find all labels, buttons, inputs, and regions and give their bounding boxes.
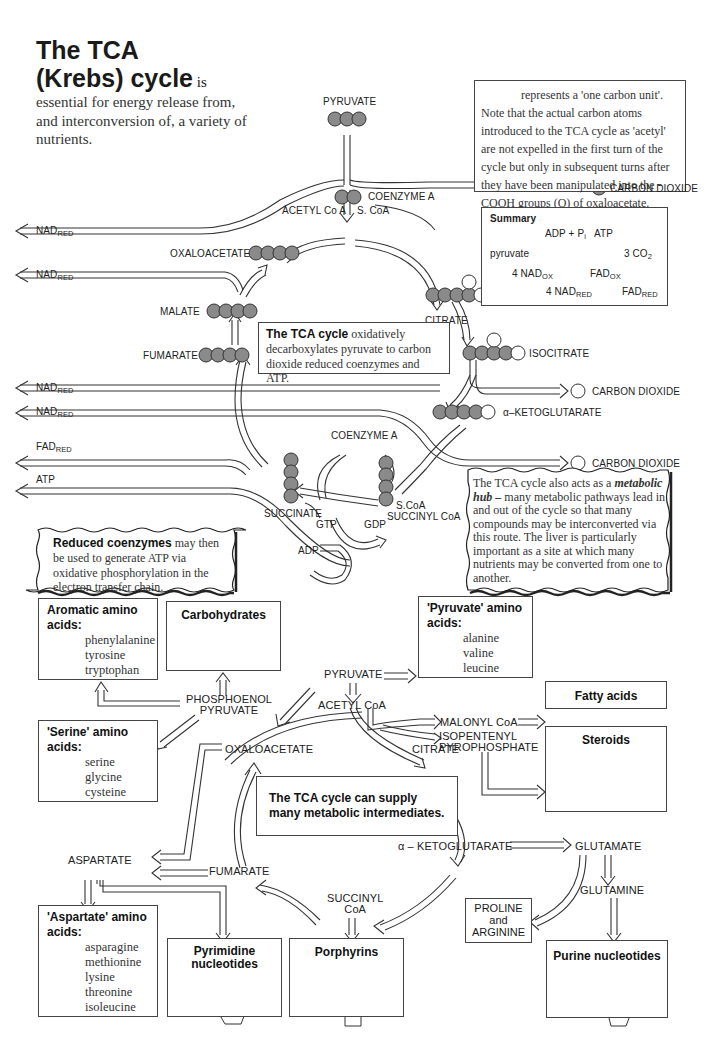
tca-supply-note-text: The TCA cycle can supply many metabolic … [269,791,445,821]
box-pyrimidine-nucleotides: Pyrimidine nucleotides [167,938,282,1017]
box-steroids-heading: Steroids [546,733,666,748]
box-pyrimidine-heading: Pyrimidine nucleotides [182,945,267,971]
reduced-coenzymes-note: Reduced coenzymes may then be used to ge… [53,536,231,595]
summary-pyruvate: pyruvate [490,248,529,259]
label-aspartate: ASPARTATE [68,854,132,866]
aspartate-aa-item: threonine [85,985,149,1000]
label-oxaloacetate-lower: OXALOACETATE [225,743,313,755]
box-steroids: Steroids [545,726,667,812]
label-isocitrate: ISOCITRATE [529,348,589,359]
metabolic-hub-text: many metabolic pathways lead in and out … [473,490,665,585]
box-purine-nucleotides: Purine nucleotides [546,940,668,1018]
summary-co2: 3 CO2 [624,248,652,261]
output-nad-red-2: NADRED [36,269,74,282]
output-nad-red-4: NADRED [36,406,74,419]
metabolic-hub-lead: The TCA cycle also acts as a [473,476,614,490]
label-pyruvate-top: PYRUVATE [323,96,376,107]
label-fumarate-top: FUMARATE [143,350,198,361]
box-carbohydrates-heading: Carbohydrates [167,608,280,623]
serine-aa-item: glycine [85,770,149,785]
aromatic-item: phenylalanine [85,633,149,648]
pyruvate-aa-item: valine [463,646,524,661]
label-fumarate-lower: FUMARATE [209,865,269,877]
summary-heading: Summary [490,213,536,224]
label-malonyl-coa: MALONYL CoA [440,716,518,728]
label-succinyl-coa-top: SUCCINYL CoA [387,511,461,522]
summary-fad-red: FADRED [622,286,658,299]
label-alpha-ketoglutarate-top: α–KETOGLUTARATE [503,407,601,418]
label-oxaloacetate-top: OXALOACETATE [170,248,250,259]
output-nad-red-3: NADRED [36,382,74,395]
output-fad-red: FADRED [36,441,72,454]
summary-fad-ox: FADOX [590,268,621,281]
summary-box: Summary ADP + Pi ATP pyruvate 3 CO2 4 NA… [481,207,668,306]
box-porphyrins: Porphyrins [289,938,404,1017]
box-pyruvate-amino-acids: 'Pyruvate' amino acids: alanine valine l… [418,596,533,678]
pyruvate-aa-item: alanine [463,631,524,646]
metabolic-hub-note: The TCA cycle also acts as a metabolic h… [473,477,665,585]
label-carbon-dioxide-3: CARBON DIOXIDE [592,458,680,469]
reduced-coenzymes-bold: Reduced coenzymes [53,536,172,550]
aspartate-aa-item: lysine [85,970,149,985]
serine-aa-item: cysteine [85,785,149,800]
label-s-coa-2: S.CoA [396,500,425,511]
box-fatty-acids: Fatty acids [545,681,667,709]
aspartate-aa-item: isoleucine [85,1000,149,1015]
box-carbohydrates: Carbohydrates [166,601,281,671]
box-proline-arginine: PROLINE and ARGININE [465,898,532,943]
box-porphyrins-heading: Porphyrins [290,945,403,960]
aromatic-item: tryptophan [85,663,149,678]
summary-atp: ATP [594,228,613,239]
serine-aa-item: serine [85,755,149,770]
tca-center-note-bold: The TCA cycle [266,327,348,341]
box-serine-amino-acids: 'Serine' amino acids: serine glycine cys… [38,720,158,802]
title-heading-tail: is [193,74,207,90]
label-glutamate: GLUTAMATE [575,840,642,852]
summary-nad-red: 4 NADRED [546,286,592,299]
box-tca-supply-note: The TCA cycle can supply many metabolic … [256,776,458,836]
and-label: and [466,914,531,926]
output-atp: ATP [36,474,55,485]
aromatic-item: tyrosine [85,648,149,663]
carbon-unit-note: represents a 'one carbon unit'. Note tha… [474,80,686,192]
label-coenzyme-a-top: COENZYME A [368,191,435,202]
label-gtp: GTP [316,519,337,530]
label-alpha-ketoglutarate-lower: α – KETOGLUTARATE [398,840,512,852]
box-aspartate-heading: 'Aspartate' amino acids: [47,910,149,940]
box-aspartate-amino-acids: 'Aspartate' amino acids: asparagine meth… [38,905,158,1017]
box-pyruvate-aa-heading: 'Pyruvate' amino acids: [427,601,524,631]
label-acetyl-coa-lower: ACETYL CoA [318,699,386,711]
label-pyruvate-lower: PYRUVATE [324,668,382,680]
label-citrate-lower: CITRATE [412,743,459,755]
pyruvate-aa-item: leucine [463,661,524,676]
label-succinate: SUCCINATE [264,508,322,519]
label-s-coa: S. CoA [357,205,389,216]
summary-nad-ox: 4 NADOX [512,268,553,281]
box-fatty-acids-heading: Fatty acids [575,689,638,703]
label-adp: ADP [298,545,319,556]
summary-adp-pi: ADP + Pi [545,228,586,241]
label-carbon-dioxide-1: CARBON DIOXIDE [610,183,698,194]
aspartate-aa-item: methionine [85,955,149,970]
title-heading-line1: The TCA [36,36,256,64]
box-serine-heading: 'Serine' amino acids: [47,725,149,755]
label-acetyl-coa: ACETYL Co A [282,205,346,216]
box-aromatic-heading: Aromatic amino acids: [47,603,149,633]
label-carbon-dioxide-2: CARBON DIOXIDE [592,386,680,397]
title-heading-line2: (Krebs) cycle [36,64,193,92]
label-coenzyme-a-bottom: COENZYME A [331,430,398,441]
tca-center-note: The TCA cycle oxidatively decarboxylates… [258,322,450,374]
label-succinyl-coa-lower: SUCCINYL CoA [327,893,383,915]
proline-label: PROLINE [466,902,531,914]
aspartate-aa-item: asparagine [85,940,149,955]
title-intro: essential for energy release from, and i… [36,93,256,149]
arginine-label: ARGININE [466,926,531,938]
output-nad-red-1: NADRED [36,225,74,238]
box-purine-heading: Purine nucleotides [547,949,667,964]
label-phosphoenol-pyruvate: PHOSPHOENOL PYRUVATE [186,694,272,716]
label-gdp: GDP [364,519,386,530]
label-glutamine: GLUTAMINE [580,884,644,896]
box-aromatic-amino-acids: Aromatic amino acids: phenylalanine tyro… [38,598,158,680]
title-block: The TCA (Krebs) cycle is essential for e… [36,36,256,149]
label-malate: MALATE [160,306,200,317]
